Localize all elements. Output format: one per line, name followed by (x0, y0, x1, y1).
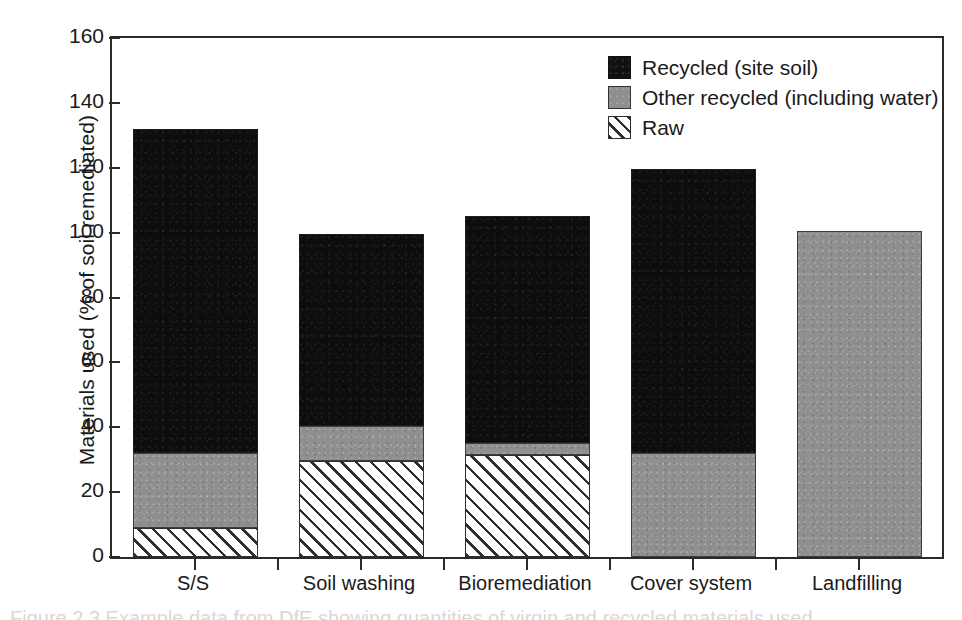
bar-segment-raw (299, 461, 424, 557)
y-axis-tick-mark (109, 361, 120, 363)
bar-segment-other-recycled (797, 231, 922, 557)
x-axis-label-s-s: S/S (177, 572, 209, 595)
y-axis-tick-label: 140 (69, 89, 104, 113)
y-axis-tick-mark (109, 297, 120, 299)
bar-s-s[interactable] (133, 129, 258, 557)
chart-legend: Recycled (site soil)Other recycled (incl… (608, 52, 938, 142)
legend-item[interactable]: Raw (608, 112, 938, 142)
y-axis-tick-label: 60 (81, 348, 104, 372)
y-axis-tick-label: 120 (69, 154, 104, 178)
x-axis-label-cover-system: Cover system (630, 572, 752, 595)
y-axis-tick-label: 160 (69, 24, 104, 48)
plot-area: 020406080100120140160 Recycled (site soi… (110, 36, 944, 559)
y-axis-tick-mark (109, 232, 120, 234)
y-axis-tick-mark (109, 167, 120, 169)
y-axis-tick-label: 100 (69, 219, 104, 243)
x-axis-label-landfilling: Landfilling (812, 572, 902, 595)
y-axis-tick-mark (109, 426, 120, 428)
x-axis-tick-mark (858, 559, 860, 570)
bar-segment-recycled-site-soil (631, 169, 756, 453)
x-axis-tick-mark (443, 559, 445, 570)
bar-segment-recycled-site-soil (299, 234, 424, 425)
legend-item-label: Other recycled (including water) (642, 87, 938, 108)
x-axis-label-bioremediation: Bioremediation (458, 572, 591, 595)
x-axis-label-soil-washing: Soil washing (303, 572, 415, 595)
bar-cover-system[interactable] (631, 169, 756, 557)
solid-black-swatch-icon (608, 56, 631, 79)
x-axis-tick-mark (277, 559, 279, 570)
chart-figure: Materials used (% of soil remediated) 02… (0, 0, 962, 620)
figure-caption: Figure 2.3 Example data from DfE showing… (10, 607, 952, 620)
x-axis-tick-mark (692, 559, 694, 570)
y-axis-tick-mark (109, 491, 120, 493)
legend-item[interactable]: Other recycled (including water) (608, 82, 938, 112)
bar-segment-other-recycled (465, 443, 590, 454)
bar-segment-other-recycled (631, 453, 756, 557)
bar-bioremediation[interactable] (465, 216, 590, 557)
bar-soil-washing[interactable] (299, 234, 424, 557)
bar-landfilling[interactable] (797, 231, 922, 557)
bar-segment-recycled-site-soil (133, 129, 258, 453)
legend-item-label: Recycled (site soil) (642, 57, 818, 78)
x-axis-tick-mark (775, 559, 777, 570)
bar-segment-other-recycled (133, 453, 258, 528)
y-axis-tick-mark (109, 37, 120, 39)
legend-item[interactable]: Recycled (site soil) (608, 52, 938, 82)
x-axis-tick-mark (526, 559, 528, 570)
bar-segment-other-recycled (299, 426, 424, 462)
y-axis-tick-label: 20 (81, 478, 104, 502)
bar-segment-recycled-site-soil (465, 216, 590, 443)
bar-segment-raw (465, 455, 590, 557)
y-axis-tick-label: 80 (81, 284, 104, 308)
y-axis-tick-mark (109, 556, 120, 558)
solid-gray-swatch-icon (608, 86, 631, 109)
x-axis-tick-mark (194, 559, 196, 570)
x-axis-tick-mark (609, 559, 611, 570)
legend-item-label: Raw (642, 117, 684, 138)
diagonal-hatch-swatch-icon (608, 116, 631, 139)
y-axis-tick-label: 0 (92, 543, 104, 567)
y-axis-tick-label: 40 (81, 413, 104, 437)
x-axis-tick-mark (360, 559, 362, 570)
bar-segment-raw (133, 528, 258, 557)
y-axis-tick-mark (109, 102, 120, 104)
